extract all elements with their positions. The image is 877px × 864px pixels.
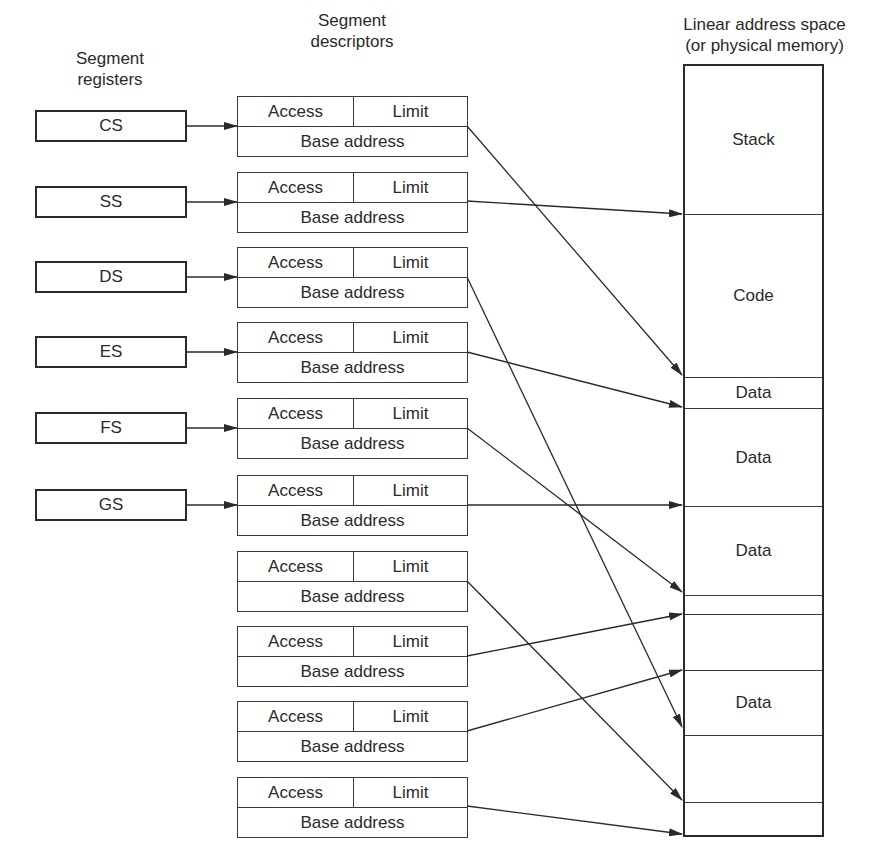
memory-heading: Linear address space (or physical memory… <box>652 14 877 56</box>
access-field: Access <box>238 97 354 126</box>
limit-field: Limit <box>354 399 467 428</box>
limit-field: Limit <box>354 702 467 731</box>
limit-field: Limit <box>354 323 467 352</box>
register-cs: CS <box>35 110 187 142</box>
descriptor-3: AccessLimitBase address <box>237 247 468 308</box>
base-address-field: Base address <box>238 732 467 761</box>
memory-segment-data: Data <box>685 507 822 596</box>
arrow-descriptor-2-to-memory <box>467 201 682 214</box>
limit-field: Limit <box>354 248 467 277</box>
memory-segment-data: Data <box>685 409 822 507</box>
arrow-descriptor-9-to-memory <box>467 670 682 731</box>
memory-segment-free <box>685 615 822 671</box>
memory-heading-line1: Linear address space <box>652 14 877 35</box>
base-address-field: Base address <box>238 808 467 837</box>
descriptor-2: AccessLimitBase address <box>237 172 468 233</box>
access-field: Access <box>238 323 354 352</box>
base-address-field: Base address <box>238 429 467 458</box>
access-field: Access <box>238 778 354 807</box>
limit-field: Limit <box>354 778 467 807</box>
memory-segment-free <box>685 736 822 803</box>
access-field: Access <box>238 173 354 202</box>
arrow-descriptor-10-to-memory <box>467 806 682 834</box>
memory-segment-stack: Stack <box>685 66 822 215</box>
arrow-descriptor-4-to-memory <box>467 352 682 407</box>
register-gs: GS <box>35 489 187 521</box>
descriptor-top-row: AccessLimit <box>238 552 467 582</box>
limit-field: Limit <box>354 476 467 505</box>
descriptor-top-row: AccessLimit <box>238 399 467 429</box>
arrow-descriptor-3-to-memory <box>467 277 682 727</box>
descriptors-heading: Segment descriptors <box>262 10 442 52</box>
access-field: Access <box>238 627 354 656</box>
register-ds: DS <box>35 261 187 293</box>
descriptor-9: AccessLimitBase address <box>237 701 468 762</box>
base-address-field: Base address <box>238 506 467 535</box>
base-address-field: Base address <box>238 353 467 382</box>
descriptor-8: AccessLimitBase address <box>237 626 468 687</box>
registers-heading: Segment registers <box>50 48 170 90</box>
limit-field: Limit <box>354 173 467 202</box>
registers-heading-line1: Segment <box>50 48 170 69</box>
descriptors-heading-line2: descriptors <box>262 31 442 52</box>
limit-field: Limit <box>354 627 467 656</box>
limit-field: Limit <box>354 97 467 126</box>
register-es: ES <box>35 336 187 368</box>
descriptor-top-row: AccessLimit <box>238 173 467 203</box>
descriptor-top-row: AccessLimit <box>238 627 467 657</box>
memory-segment-data: Data <box>685 671 822 736</box>
descriptor-4: AccessLimitBase address <box>237 322 468 383</box>
descriptor-6: AccessLimitBase address <box>237 475 468 536</box>
register-fs: FS <box>35 412 187 444</box>
memory-segment-free <box>685 596 822 615</box>
register-ss: SS <box>35 186 187 218</box>
memory-segment-data: Data <box>685 378 822 409</box>
access-field: Access <box>238 248 354 277</box>
base-address-field: Base address <box>238 127 467 156</box>
descriptor-1: AccessLimitBase address <box>237 96 468 157</box>
descriptor-top-row: AccessLimit <box>238 97 467 127</box>
access-field: Access <box>238 552 354 581</box>
descriptor-top-row: AccessLimit <box>238 476 467 506</box>
descriptor-top-row: AccessLimit <box>238 323 467 353</box>
arrow-descriptor-8-to-memory <box>467 614 682 656</box>
descriptor-10: AccessLimitBase address <box>237 777 468 838</box>
base-address-field: Base address <box>238 203 467 232</box>
linear-address-space: StackCodeDataDataDataData <box>683 64 824 837</box>
access-field: Access <box>238 702 354 731</box>
memory-segment-free <box>685 803 822 835</box>
registers-heading-line2: registers <box>50 69 170 90</box>
access-field: Access <box>238 476 354 505</box>
arrow-descriptor-7-to-memory <box>467 581 682 800</box>
descriptor-5: AccessLimitBase address <box>237 398 468 459</box>
descriptors-heading-line1: Segment <box>262 10 442 31</box>
arrow-descriptor-5-to-memory <box>467 428 682 592</box>
descriptor-7: AccessLimitBase address <box>237 551 468 612</box>
base-address-field: Base address <box>238 657 467 686</box>
limit-field: Limit <box>354 552 467 581</box>
descriptor-top-row: AccessLimit <box>238 702 467 732</box>
descriptor-top-row: AccessLimit <box>238 778 467 808</box>
memory-segment-code: Code <box>685 215 822 378</box>
base-address-field: Base address <box>238 582 467 611</box>
memory-heading-line2: (or physical memory) <box>652 35 877 56</box>
descriptor-top-row: AccessLimit <box>238 248 467 278</box>
base-address-field: Base address <box>238 278 467 307</box>
arrow-descriptor-1-to-memory <box>467 126 682 375</box>
access-field: Access <box>238 399 354 428</box>
